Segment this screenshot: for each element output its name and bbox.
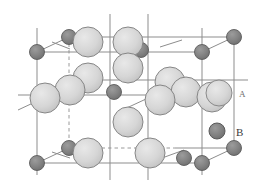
atom-a-mid-right-back <box>171 77 201 107</box>
atom-b-top-back-right <box>227 30 242 45</box>
legend-label-b: B <box>236 126 243 138</box>
unit-cell-svg: A B <box>0 0 268 184</box>
atom-b-top-front-right <box>195 45 210 60</box>
atom-b-bottom-inner-right <box>177 151 192 166</box>
atom-a-bottom-left <box>73 138 103 168</box>
atom-b-top-front-left <box>30 45 45 60</box>
atom-b-center <box>107 85 122 100</box>
crystal-structure-figure: A B <box>0 0 268 184</box>
atom-a-mid-left-front <box>30 83 60 113</box>
atom-a-bottom-right <box>135 138 165 168</box>
legend-marker-b <box>209 123 225 139</box>
atom-b-bottom-back-right <box>227 141 242 156</box>
atom-a-mid-center-right <box>145 85 175 115</box>
atom-a-top-left <box>73 27 103 57</box>
atom-a-upper-center <box>113 53 143 83</box>
legend-label-a: A <box>239 89 246 99</box>
atom-a-lower-center <box>113 107 143 137</box>
atom-b-bottom-front-right <box>195 156 210 171</box>
legend-marker-a <box>206 80 232 106</box>
atom-b-bottom-front-left <box>30 156 45 171</box>
